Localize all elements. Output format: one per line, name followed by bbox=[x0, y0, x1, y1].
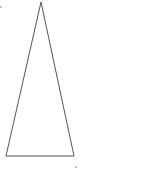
dot-mark bbox=[75, 166, 77, 168]
triangle-diagram bbox=[0, 0, 161, 169]
canvas-background bbox=[0, 0, 161, 169]
dot-mark bbox=[0, 6, 2, 8]
